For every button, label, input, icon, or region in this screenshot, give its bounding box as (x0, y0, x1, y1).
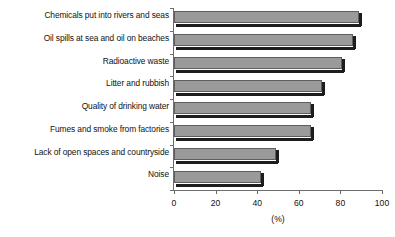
x-tick-label: 0 (172, 198, 177, 208)
bar-shadow (176, 93, 324, 96)
bar-face (174, 125, 311, 137)
bar-face (174, 11, 359, 23)
bar (174, 80, 325, 96)
bar (174, 57, 345, 73)
x-axis-title: (%) (174, 214, 382, 224)
bar-shadow (276, 150, 279, 163)
y-tick (170, 76, 174, 77)
y-tick (170, 167, 174, 168)
bar-shadow (176, 70, 344, 73)
y-tick (170, 54, 174, 55)
x-tick (382, 190, 383, 194)
y-tick (170, 8, 174, 9)
x-tick-label: 80 (336, 198, 346, 208)
bar-shadow (311, 104, 314, 117)
x-tick (299, 190, 300, 194)
bar (174, 148, 279, 164)
x-tick-label: 100 (375, 198, 389, 208)
x-axis-line (173, 190, 382, 191)
x-tick (257, 190, 258, 194)
bar-face (174, 57, 342, 69)
category-label: Oil spills at sea and oil on beaches (44, 34, 169, 43)
plot-area: 020406080100 (174, 8, 382, 190)
category-label: Fumes and smoke from factories (50, 125, 169, 134)
bar-shadow (342, 59, 345, 72)
y-tick (170, 99, 174, 100)
bar-shadow (176, 161, 278, 164)
bar (174, 11, 362, 27)
bar-shadow (176, 47, 355, 50)
bar-face (174, 102, 311, 114)
x-tick (216, 190, 217, 194)
bar-chart: Chemicals put into rivers and seas Oil s… (0, 0, 395, 237)
bar-shadow (359, 13, 362, 26)
category-label: Quality of drinking water (82, 102, 169, 111)
y-tick (170, 122, 174, 123)
bar-face (174, 80, 322, 92)
category-label: Noise (148, 170, 169, 179)
bar-shadow (322, 82, 325, 95)
x-tick-label: 40 (252, 198, 262, 208)
bar-shadow (176, 115, 313, 118)
x-tick-label: 20 (211, 198, 221, 208)
bar-shadow (353, 36, 356, 49)
y-tick (170, 31, 174, 32)
category-label: Chemicals put into rivers and seas (44, 11, 169, 20)
x-tick-label: 60 (294, 198, 304, 208)
bar-face (174, 34, 353, 46)
y-tick (170, 145, 174, 146)
bar (174, 102, 314, 118)
category-label: Radioactive waste (103, 57, 169, 66)
bar-shadow (176, 24, 361, 27)
bar-face (174, 148, 276, 160)
bar-face (174, 171, 261, 183)
bar (174, 34, 356, 50)
category-label: Lack of open spaces and countryside (34, 148, 169, 157)
bar (174, 171, 264, 187)
bar (174, 125, 314, 141)
category-label: Litter and rubbish (106, 79, 169, 88)
x-tick (340, 190, 341, 194)
bar-shadow (261, 173, 264, 186)
bar-shadow (176, 138, 313, 141)
bar-shadow (176, 184, 263, 187)
bar-shadow (311, 127, 314, 140)
x-tick (174, 190, 175, 194)
